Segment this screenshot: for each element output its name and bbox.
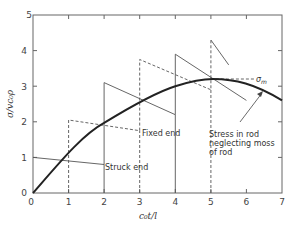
fixed-end-tail <box>211 40 229 65</box>
struck-end-label: Struck end <box>105 163 148 172</box>
y-tick-4: 4 <box>21 46 27 56</box>
sigma-m-label: σm <box>256 75 267 85</box>
chart-canvas: 0 1 2 3 4 5 0 1 2 3 4 5 6 7 c₀t/l σ/vc₀ρ… <box>0 0 292 229</box>
y-axis-label: σ/vc₀ρ <box>5 89 15 118</box>
y-tick-2: 2 <box>21 117 27 127</box>
y-tick-1: 1 <box>21 153 27 163</box>
x-axis-label: c₀t/l <box>139 211 157 221</box>
stress-label-line1: Stress in rod <box>209 130 259 139</box>
x-tick-0: 0 <box>28 197 34 207</box>
annotation-arrow <box>240 93 262 122</box>
fixed-end-label: Fixed end <box>142 129 180 138</box>
x-axis <box>69 15 247 193</box>
y-tick-3: 3 <box>21 82 27 92</box>
x-tick-6: 6 <box>244 197 250 207</box>
plot-frame <box>33 15 282 193</box>
stress-label-line3: of rod <box>209 148 232 157</box>
stress-label-line2: neglecting moss <box>209 139 275 148</box>
x-tick-3: 3 <box>137 197 143 207</box>
y-tick-0: 0 <box>21 188 27 198</box>
x-tick-7: 7 <box>279 197 285 207</box>
x-tick-1: 1 <box>66 197 72 207</box>
y-tick-5: 5 <box>26 10 32 20</box>
x-tick-2: 2 <box>101 197 107 207</box>
arrowhead-icon <box>257 91 263 97</box>
x-tick-5: 5 <box>208 197 214 207</box>
x-tick-4: 4 <box>172 197 178 207</box>
